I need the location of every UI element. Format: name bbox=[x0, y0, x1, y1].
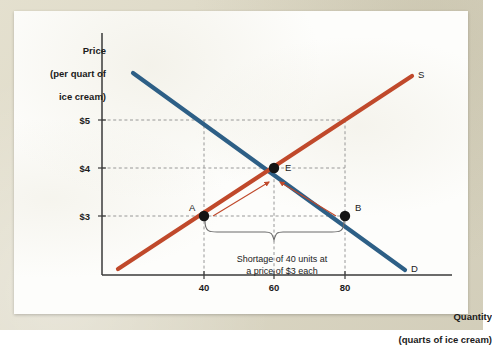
y-axis-label-main: Price bbox=[83, 45, 106, 56]
point-label-b: B bbox=[355, 202, 361, 213]
supply-curve bbox=[118, 76, 412, 269]
x-tick-label-40: 40 bbox=[191, 282, 217, 293]
y-axis-label-sub-2: ice cream) bbox=[59, 91, 106, 102]
x-axis-label-main: Quantity bbox=[453, 311, 492, 322]
y-tick-label-5: $5 bbox=[64, 115, 90, 126]
y-tick-label-3: $3 bbox=[64, 211, 90, 222]
shortage-brace bbox=[205, 221, 344, 240]
point-label-e: E bbox=[285, 162, 291, 173]
x-tick-label-60: 60 bbox=[261, 282, 287, 293]
point-label-a: A bbox=[189, 202, 195, 213]
y-axis-label-sub-1: (per quart of bbox=[50, 68, 106, 79]
point-e-marker bbox=[269, 163, 279, 173]
x-tick-label-80: 80 bbox=[332, 282, 358, 293]
adjustment-arrows bbox=[213, 182, 336, 216]
y-axis-label: Price (per quart of ice cream) bbox=[22, 33, 106, 114]
point-a-marker bbox=[199, 211, 209, 221]
curve-label-demand: D bbox=[411, 263, 418, 274]
point-b-marker bbox=[340, 211, 350, 221]
x-axis-label-sub: (quarts of ice cream) bbox=[399, 334, 492, 345]
shortage-annotation: Shortage of 40 units at a price of $3 ea… bbox=[197, 254, 367, 277]
arrow-b-to-e bbox=[280, 182, 336, 216]
x-axis-label: Quantity (quarts of ice cream) bbox=[366, 299, 492, 349]
chart-panel: Price (per quart of ice cream) Quantity … bbox=[14, 11, 468, 314]
curve-label-supply: S bbox=[418, 69, 424, 80]
y-tick-label-4: $4 bbox=[64, 163, 90, 174]
